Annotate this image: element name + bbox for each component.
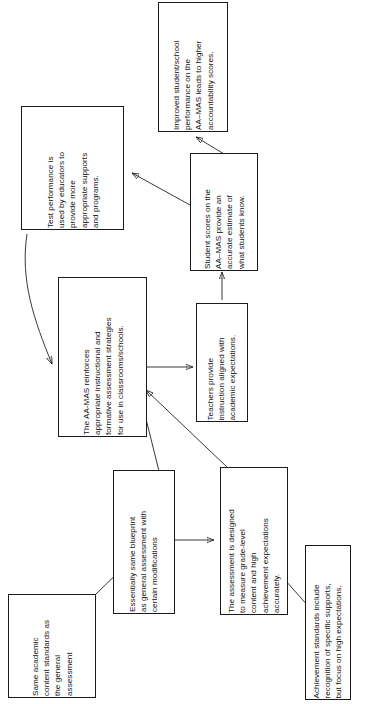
node-aa-mas-reinforces-label: The AA-MAS reinforces appropriate instru… [80,279,125,435]
flowchart-diagram: Improved student/school performance on t… [0,0,369,704]
node-assessment-designed-label: The assessment is designed to measure gr… [226,469,282,613]
node-blueprint-label: Essentially same blueprint as general as… [127,472,161,612]
node-content-standards[interactable]: Same academic content standards as the g… [8,594,96,698]
edge-student-scores-to-test-performance [132,173,190,205]
node-student-scores-label: Student scores on the AA–MAS provide an … [202,155,247,269]
node-achievement-standards-label: Achievement standards include recognitio… [311,547,345,698]
node-accountability[interactable]: Improved student/school performance on t… [158,2,228,132]
node-teachers-provide[interactable]: Teachers provide instruction aligned wit… [196,303,248,422]
node-assessment-designed[interactable]: The assessment is designed to measure gr… [220,467,288,615]
node-content-standards-label: Same academic content standards as the g… [30,596,75,696]
node-teachers-provide-label: Teachers provide instruction aligned wit… [205,305,239,420]
node-test-performance[interactable]: Test performance is used by educators to… [21,106,124,230]
node-student-scores[interactable]: Student scores on the AA–MAS provide an … [190,153,258,271]
node-test-performance-label: Test performance is used by educators to… [44,108,100,228]
node-achievement-standards[interactable]: Achievement standards include recognitio… [305,545,351,700]
node-aa-mas-reinforces[interactable]: The AA-MAS reinforces appropriate instru… [58,277,147,437]
node-blueprint[interactable]: Essentially same blueprint as general as… [113,470,175,614]
node-accountability-label: Improved student/school performance on t… [171,4,216,130]
edge-test-performance-to-aa-mas [25,234,52,364]
